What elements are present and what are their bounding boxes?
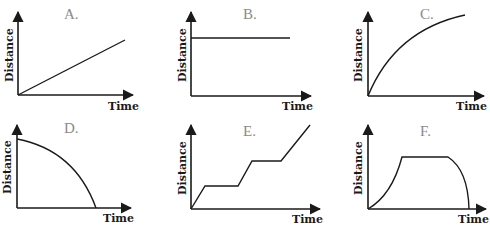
graph-line — [17, 139, 96, 208]
distance-time-graphs: A. Time Distance B. Time Distance C. Tim… — [0, 0, 490, 226]
graph-a: A. Time Distance — [3, 6, 139, 113]
graph-title: E. — [243, 123, 256, 139]
graph-title: B. — [243, 6, 257, 22]
graph-line — [368, 15, 465, 96]
y-axis-label: Distance — [352, 141, 365, 195]
x-axis-label: Time — [292, 213, 323, 226]
graph-b: B. Time Distance — [176, 6, 313, 113]
x-axis-label: Time — [458, 213, 489, 226]
graph-title: F. — [420, 123, 431, 139]
graph-title: A. — [64, 6, 79, 22]
y-axis-label: Distance — [176, 28, 189, 82]
y-axis-label: Distance — [352, 28, 365, 82]
graph-line — [368, 157, 469, 209]
y-axis-label: Distance — [176, 141, 189, 195]
graph-d: D. Time Distance — [1, 120, 134, 225]
x-axis-label: Time — [456, 100, 487, 113]
graph-f: F. Time Distance — [352, 123, 489, 226]
graph-line — [18, 40, 125, 95]
x-axis-label: Time — [282, 100, 313, 113]
y-axis-label: Distance — [1, 140, 14, 194]
graph-title: D. — [64, 120, 79, 136]
graph-c: C. Time Distance — [352, 6, 487, 113]
graph-title: C. — [420, 6, 434, 22]
graph-e: E. Time Distance — [176, 123, 323, 226]
x-axis-label: Time — [103, 212, 134, 225]
x-axis-label: Time — [108, 100, 139, 113]
y-axis-label: Distance — [3, 28, 16, 82]
